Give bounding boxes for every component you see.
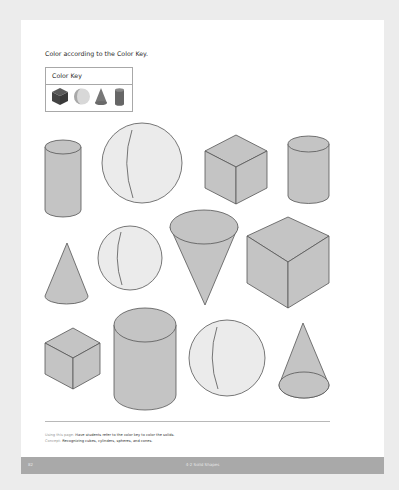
- using-text: Have students refer to the color key to …: [75, 433, 174, 437]
- shape-cone-2[interactable]: [170, 210, 238, 305]
- concept-note: Concept: Recognizing cubes, cylinders, s…: [45, 438, 174, 444]
- concept-label: Concept:: [45, 439, 61, 443]
- shape-cylinder-2[interactable]: [288, 136, 329, 203]
- shape-cube-2[interactable]: [247, 217, 329, 308]
- shape-cone-3[interactable]: [279, 323, 329, 398]
- shape-cone-1[interactable]: [45, 243, 88, 304]
- divider-rule: [45, 421, 330, 422]
- shape-cube-3[interactable]: [45, 328, 100, 389]
- shape-sphere-1[interactable]: [102, 123, 182, 203]
- worksheet-page: Color according to the Color Key. Color …: [21, 20, 384, 474]
- shape-cube-1[interactable]: [205, 135, 267, 204]
- using-label: Using this page:: [45, 433, 74, 437]
- footer-bar: 82 4-2 Solid Shapes: [21, 457, 384, 474]
- concept-text: Recognizing cubes, cylinders, spheres, a…: [62, 439, 152, 443]
- shape-cylinder-3[interactable]: [114, 308, 176, 410]
- teacher-notes: Using this page: Have students refer to …: [45, 432, 174, 444]
- lesson-title: 4-2 Solid Shapes: [21, 462, 384, 467]
- shape-cylinder-1[interactable]: [45, 140, 81, 217]
- shape-sphere-2[interactable]: [98, 226, 162, 290]
- shape-sphere-3[interactable]: [189, 320, 265, 396]
- shapes-canvas: .f { fill: #c4c4c4; stroke: #555; stroke…: [21, 20, 384, 457]
